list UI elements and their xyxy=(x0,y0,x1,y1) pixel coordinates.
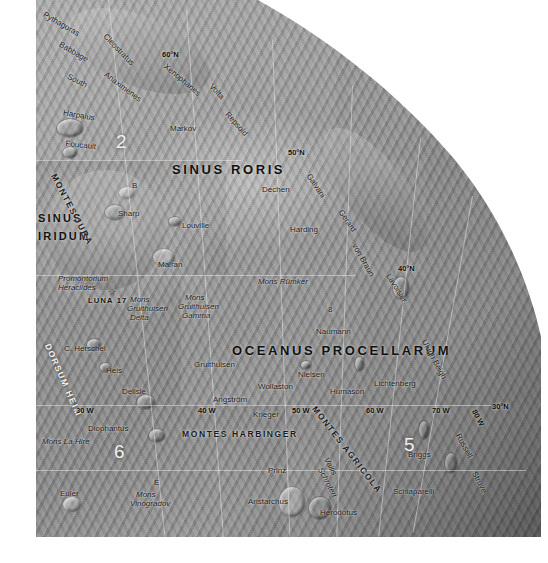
crater-label-54: Schiaparelli xyxy=(393,487,434,496)
crater-label-53: Herodotus xyxy=(320,508,357,517)
longitude-tick-label-3: 60 W xyxy=(366,406,384,415)
crater-label-52: Aristarchus xyxy=(248,497,288,506)
crater-label-30: Mons xyxy=(185,293,205,302)
longitude-tick-label-1: 40 W xyxy=(198,406,216,415)
crater-label-19: Louville xyxy=(182,221,209,230)
crater-label-34: C. Herschel xyxy=(64,344,106,353)
crater-label-39: Mons xyxy=(136,490,156,499)
crater-label-31: Gruithuisen xyxy=(178,302,219,311)
star-icon: ☆ xyxy=(108,287,116,297)
crater-form xyxy=(300,360,312,370)
crater-label-23: Naumann xyxy=(316,327,351,336)
crater-label-25: Promontorium xyxy=(58,274,108,283)
ridge-form xyxy=(305,112,445,267)
region-number-6: 6 xyxy=(114,441,125,463)
latitude-tick-label-1: 50°N xyxy=(288,148,305,157)
landing-site-label-0: LUNA 17 xyxy=(88,296,127,305)
crater-label-49: Prinz xyxy=(268,466,286,475)
crater-label-36: Delisle xyxy=(122,387,146,396)
crater-label-42: Mons La Hire xyxy=(42,437,90,446)
region-number-5: 5 xyxy=(404,434,415,456)
crater-label-33: Gruithuisen xyxy=(194,360,235,369)
crater-form xyxy=(168,216,182,227)
crater-label-44: Krieger xyxy=(253,410,279,419)
crater-label-21: Mons Rümker xyxy=(258,277,308,286)
crater-form xyxy=(354,356,365,372)
region-number-2: 2 xyxy=(116,131,127,153)
crater-label-40: Vinogradov xyxy=(130,499,170,508)
crater-label-46: Nielsen xyxy=(298,370,325,379)
crater-label-10: Markov xyxy=(170,124,196,133)
crater-label-35: Heis xyxy=(106,366,122,375)
crater-label-18: Sharp xyxy=(118,209,139,218)
mountain-range-label-1: MONTES HARBINGER xyxy=(182,429,298,439)
crater-label-45: Wollaston xyxy=(258,382,293,391)
crater-label-32: Gamma xyxy=(182,311,210,320)
longitude-tick-label-0: 30 W xyxy=(76,406,94,415)
crater-label-43: Angström xyxy=(213,395,247,404)
crater-label-48: Lichtenberg xyxy=(374,379,416,388)
crater-form xyxy=(56,118,84,138)
crater-form xyxy=(148,428,166,443)
crater-label-20: Mairan xyxy=(158,260,182,269)
crater-label-37: Diophantus xyxy=(88,424,128,433)
longitude-tick-label-4: 70 W xyxy=(432,406,450,415)
lunar-map: SINUS RORISSINUSIRIDUMOCEANUS PROCELLARU… xyxy=(0,0,548,563)
mosaic-patch xyxy=(36,405,286,537)
crater-form xyxy=(418,420,430,440)
mare-label-3: OCEANUS PROCELLARUM xyxy=(232,343,451,358)
crater-form xyxy=(444,452,458,474)
crater-label-26: Heraclides xyxy=(58,283,96,292)
crater-label-41: E xyxy=(154,478,159,487)
crater-label-27: Mons xyxy=(130,295,150,304)
crater-label-28: Gruithuisen xyxy=(127,304,168,313)
latitude-tick-label-0: 60°N xyxy=(162,50,179,59)
crater-label-16: Harding xyxy=(290,225,318,234)
crater-label-29: Delta xyxy=(130,313,149,322)
mare-label-0: SINUS RORIS xyxy=(172,162,285,177)
longitude-tick-label-2: 50 W xyxy=(292,406,310,415)
crater-label-38: Euler xyxy=(60,489,79,498)
crater-label-47: Humason xyxy=(330,387,364,396)
crater-form xyxy=(136,394,156,410)
crater-label-22: 8 xyxy=(328,305,332,314)
crater-form xyxy=(62,496,82,513)
crater-label-11: Dechen xyxy=(262,185,290,194)
latitude-tick-label-3: 30°N xyxy=(492,402,509,411)
crater-label-17: B xyxy=(132,181,137,190)
latitude-tick-label-2: 40°N xyxy=(398,264,415,273)
